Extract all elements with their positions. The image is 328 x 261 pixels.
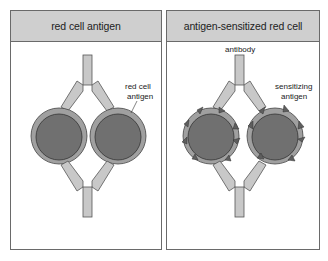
antibody-top-icon [61, 55, 114, 111]
red-cell-right-icon [90, 108, 146, 164]
label-pointer [131, 101, 137, 113]
panel-red-cell-antigen: red cell antigen red cell antigen [10, 10, 162, 250]
sensitizing-antigen-label-1: sensitizing [275, 82, 312, 91]
antibody-label: antibody [225, 45, 255, 54]
antibody-bottom-icon [61, 161, 114, 217]
panel-title: antigen-sensitized red cell [167, 11, 319, 42]
panel-antigen-sensitized-red-cell: antigen-sensitized red cell antibody [166, 10, 320, 250]
sensitized-red-cell-diagram: antibody [167, 41, 321, 251]
panel-title: red cell antigen [11, 11, 161, 42]
sensitized-cell-right-icon [247, 105, 305, 164]
red-cell-antigen-label-2: antigen [127, 92, 153, 101]
antibody-bottom-icon [213, 161, 266, 217]
antibody-top-icon [213, 55, 266, 111]
sensitizing-antigen-label-2: antigen [281, 92, 307, 101]
sensitized-cell-left-icon [182, 107, 240, 164]
red-cell-antigen-label-1: red cell [125, 82, 151, 91]
red-cell-antigen-diagram: red cell antigen [11, 41, 163, 251]
red-cell-left-icon [31, 108, 87, 164]
